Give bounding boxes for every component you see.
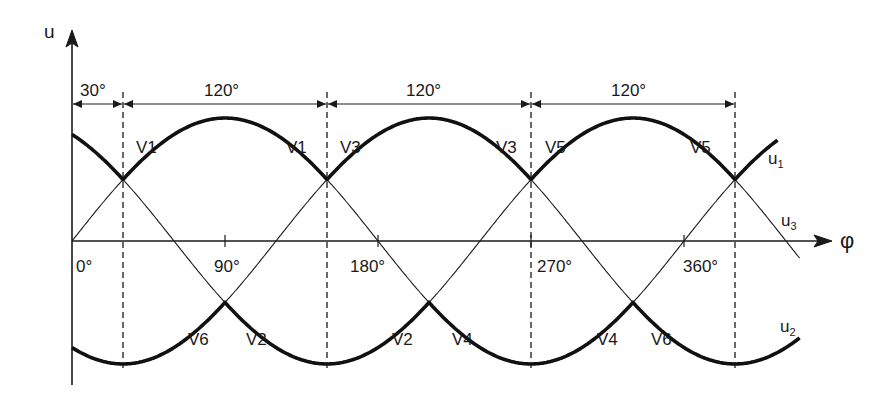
series-label-u1: u1 [768,150,784,170]
upper-envelope [72,118,778,180]
thyristor-label-v4: V4 [597,331,618,348]
waveform-diagram [0,0,891,398]
thyristor-label-v1: V1 [286,139,307,156]
tick-label-360: 360° [683,258,718,275]
interval-label-120-b: 120° [406,82,441,99]
thyristor-label-v3: V3 [340,139,361,156]
interval-label-120-a: 120° [204,82,239,99]
series-label-u2: u2 [780,318,796,338]
thyristor-label-v6: V6 [651,331,672,348]
axes [66,30,832,385]
arrowhead-icon [725,100,734,108]
tick-label-90: 90° [214,258,240,275]
lower-envelope [72,303,800,365]
thyristor-label-v2: V2 [392,331,413,348]
interval-label-30: 30° [80,82,106,99]
thyristor-label-v5: V5 [545,139,566,156]
arrowhead-icon [521,100,530,108]
thyristor-label-v1: V1 [136,139,157,156]
arrowhead-icon [73,100,82,108]
arrowhead-icon [328,100,337,108]
thyristor-label-v4: V4 [452,331,473,348]
tick-label-180: 180° [350,258,385,275]
thyristor-label-v5: V5 [690,139,711,156]
arrowhead-icon [317,100,326,108]
thyristor-label-v3: V3 [496,139,517,156]
tick-label-270: 270° [537,258,572,275]
arrowhead-icon [532,100,541,108]
y-axis-label: u [44,22,55,41]
series-label-u3: u3 [781,212,797,232]
thyristor-label-v2: V2 [246,331,267,348]
thyristor-label-v6: V6 [188,331,209,348]
x-axis-label: φ [840,230,854,252]
arrowhead-icon [113,100,122,108]
arrowhead-icon [124,100,133,108]
interval-label-120-c: 120° [611,82,646,99]
tick-label-0: 0° [76,258,92,275]
